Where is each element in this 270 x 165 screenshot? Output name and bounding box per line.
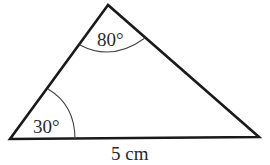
angle-label-bottom-left: 30° <box>33 117 60 136</box>
angle-label-top: 80° <box>97 30 124 49</box>
triangle-diagram <box>0 0 270 165</box>
side-label-base: 5 cm <box>111 144 148 163</box>
